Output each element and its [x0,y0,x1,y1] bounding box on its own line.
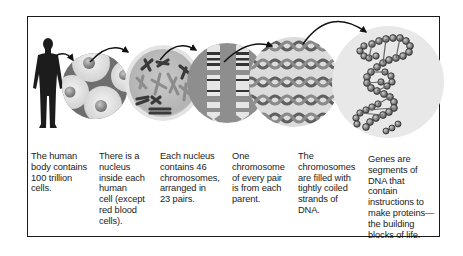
caption-chromosome-pair: One chromosome of every pair is from eac… [232,151,285,205]
caption-line: cells). [99,216,145,227]
caption-line: arranged in [160,183,220,194]
caption-line: nucleus [99,162,145,173]
human-silhouette-icon [33,38,63,128]
caption-line: 100 trillion [31,173,87,184]
diagram-illustration [0,0,463,150]
caption-line: segments of [368,165,434,176]
caption-line: is from each [232,183,285,194]
caption-line: cell (except [99,194,145,205]
caption-line: contains 46 [160,162,220,173]
caption-line: tightly coiled [298,183,355,194]
caption-cells: There is a nucleus inside each human cel… [99,151,145,227]
caption-genes: Genes are segments of DNA that contain i… [368,154,434,240]
caption-line: Each nucleus [160,151,220,162]
caption-line: chromosomes [298,162,355,173]
caption-line: chromosome [232,162,285,173]
caption-line: are filled with [298,173,355,184]
caption-line: cells. [31,183,87,194]
caption-line: human [99,183,145,194]
caption-line: inside each [99,173,145,184]
caption-line: strands of [298,194,355,205]
caption-line: parent. [232,194,285,205]
caption-line: of every pair [232,173,285,184]
caption-body: The human body contains 100 trillion cel… [31,151,87,194]
caption-line: 23 pairs. [160,194,220,205]
caption-line: contain [368,186,434,197]
caption-line: The [298,151,355,162]
caption-line: The human [31,151,87,162]
caption-line: red blood [99,205,145,216]
caption-dna-strands: The chromosomes are filled with tightly … [298,151,355,216]
dna-double-helix-icon [332,26,444,138]
caption-line: body contains [31,162,87,173]
caption-line: chromosomes, [160,173,220,184]
caption-nucleus: Each nucleus contains 46 chromosomes, ar… [160,151,220,205]
caption-line: Genes are [368,154,434,165]
caption-line: instructions to [368,197,434,208]
caption-line: DNA that [368,176,434,187]
caption-line: There is a [99,151,145,162]
caption-line: One [232,151,285,162]
caption-line: the building [368,219,434,230]
caption-line: blocks of life. [368,230,434,241]
caption-line: DNA. [298,205,355,216]
caption-line: make proteins— [368,208,434,219]
